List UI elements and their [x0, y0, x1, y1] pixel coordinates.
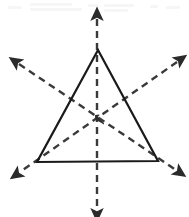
symmetry-diagram-svg	[0, 0, 189, 217]
figure-container	[0, 0, 189, 217]
